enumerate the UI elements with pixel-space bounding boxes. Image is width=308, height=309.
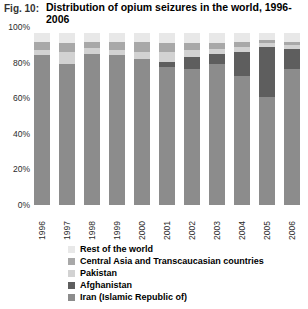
bar-segment bbox=[259, 33, 275, 40]
bar-segment bbox=[209, 54, 225, 64]
bar-segment bbox=[234, 76, 250, 205]
legend-label: Rest of the world bbox=[80, 244, 153, 254]
x-axis-tick-slot: 2002 bbox=[184, 206, 200, 240]
bar-segment bbox=[259, 47, 275, 97]
bar-segment bbox=[284, 33, 300, 42]
stacked-bar[interactable] bbox=[84, 33, 100, 205]
stacked-bar[interactable] bbox=[259, 33, 275, 205]
page-title: Distribution of opium seizures in the wo… bbox=[46, 2, 306, 25]
legend-swatch-icon bbox=[68, 246, 75, 253]
x-axis-tick: 2002 bbox=[187, 206, 197, 240]
y-axis-tick: 60% bbox=[13, 93, 30, 103]
bar-segment bbox=[134, 42, 150, 52]
bar-segment bbox=[34, 33, 50, 42]
legend-label: Pakistan bbox=[80, 268, 117, 278]
figure-title-row: Fig. 10: Distribution of opium seizures … bbox=[4, 2, 306, 25]
stacked-bar[interactable] bbox=[159, 33, 175, 205]
bar-segment bbox=[59, 52, 75, 64]
chart-plot-area bbox=[34, 33, 300, 205]
bar-segment bbox=[184, 33, 200, 43]
bar-segment bbox=[134, 59, 150, 205]
stacked-bar[interactable] bbox=[184, 33, 200, 205]
stacked-bar[interactable] bbox=[209, 33, 225, 205]
y-axis-tick: 100% bbox=[8, 22, 30, 32]
stacked-bar[interactable] bbox=[59, 33, 75, 205]
x-axis-tick-slot: 1999 bbox=[109, 206, 125, 240]
legend-swatch-icon bbox=[68, 270, 75, 277]
stacked-bar[interactable] bbox=[109, 33, 125, 205]
x-axis-tick-slot: 2006 bbox=[284, 206, 300, 240]
legend-swatch-icon bbox=[68, 294, 75, 301]
bar-segment bbox=[84, 54, 100, 205]
x-axis-tick: 2006 bbox=[287, 206, 297, 240]
x-axis-tick-slot: 2004 bbox=[234, 206, 250, 240]
stacked-bar[interactable] bbox=[234, 33, 250, 205]
legend-item[interactable]: Afghanistan bbox=[68, 279, 304, 291]
y-axis-tick: 40% bbox=[13, 129, 30, 139]
x-axis-tick: 1997 bbox=[62, 206, 72, 240]
bar-segment bbox=[134, 33, 150, 42]
stacked-bar[interactable] bbox=[284, 33, 300, 205]
bar-segment bbox=[84, 33, 100, 42]
y-axis-tick: 20% bbox=[13, 164, 30, 174]
bar-segment bbox=[234, 52, 250, 76]
bar-segment bbox=[159, 67, 175, 205]
stacked-bar[interactable] bbox=[34, 33, 50, 205]
stacked-bar-group bbox=[34, 33, 300, 205]
bar-segment bbox=[109, 55, 125, 205]
x-axis-tick-slot: 1996 bbox=[34, 206, 50, 240]
legend-swatch-icon bbox=[68, 258, 75, 265]
bar-segment bbox=[259, 97, 275, 205]
legend-item[interactable]: Rest of the world bbox=[68, 243, 304, 255]
bar-segment bbox=[59, 64, 75, 205]
x-axis-tick: 2005 bbox=[262, 206, 272, 240]
bar-segment bbox=[134, 52, 150, 59]
bar-segment bbox=[184, 43, 200, 50]
x-axis-tick-slot: 1998 bbox=[84, 206, 100, 240]
x-axis-tick: 2003 bbox=[212, 206, 222, 240]
x-axis-tick-slot: 1997 bbox=[59, 206, 75, 240]
bar-segment bbox=[109, 33, 125, 42]
x-axis-tick: 2004 bbox=[237, 206, 247, 240]
x-axis-tick: 1999 bbox=[112, 206, 122, 240]
x-axis-tick-slot: 2003 bbox=[209, 206, 225, 240]
bar-segment bbox=[159, 52, 175, 62]
bar-segment bbox=[109, 42, 125, 51]
bar-segment bbox=[184, 57, 200, 69]
x-axis-tick-slot: 2005 bbox=[259, 206, 275, 240]
stacked-bar[interactable] bbox=[134, 33, 150, 205]
bar-segment bbox=[159, 33, 175, 43]
x-axis-tick-labels: 1996199719981999200020012002200320042005… bbox=[34, 206, 300, 240]
bar-segment bbox=[284, 49, 300, 70]
legend-label: Central Asia and Transcaucasian countrie… bbox=[80, 256, 264, 266]
bar-segment bbox=[34, 42, 50, 51]
bar-segment bbox=[209, 33, 225, 43]
bar-segment bbox=[184, 50, 200, 57]
y-axis-tick: 0% bbox=[18, 200, 30, 210]
legend-item[interactable]: Central Asia and Transcaucasian countrie… bbox=[68, 255, 304, 267]
bar-segment bbox=[184, 69, 200, 205]
bar-segment bbox=[59, 33, 75, 43]
x-axis-tick: 2001 bbox=[162, 206, 172, 240]
x-axis-tick: 2000 bbox=[137, 206, 147, 240]
legend-label: Iran (Islamic Republic of) bbox=[80, 292, 187, 302]
bar-segment bbox=[84, 42, 100, 49]
bar-segment bbox=[209, 64, 225, 205]
x-axis-tick-slot: 2001 bbox=[159, 206, 175, 240]
x-axis-tick: 1998 bbox=[87, 206, 97, 240]
figure-container: Fig. 10: Distribution of opium seizures … bbox=[0, 0, 308, 309]
bar-segment bbox=[284, 69, 300, 205]
legend-swatch-icon bbox=[68, 282, 75, 289]
y-axis-tick-labels: 0%20%40%60%80%100% bbox=[0, 27, 32, 205]
bar-segment bbox=[234, 33, 250, 42]
legend-item[interactable]: Iran (Islamic Republic of) bbox=[68, 291, 304, 303]
bar-segment bbox=[59, 43, 75, 52]
bar-segment bbox=[159, 43, 175, 52]
x-axis-tick: 1996 bbox=[37, 206, 47, 240]
y-axis-tick: 80% bbox=[13, 58, 30, 68]
figure-number: Fig. 10: bbox=[4, 2, 39, 14]
x-axis-tick-slot: 2000 bbox=[134, 206, 150, 240]
legend-item[interactable]: Pakistan bbox=[68, 267, 304, 279]
bar-segment bbox=[34, 55, 50, 205]
legend-label: Afghanistan bbox=[80, 280, 132, 290]
